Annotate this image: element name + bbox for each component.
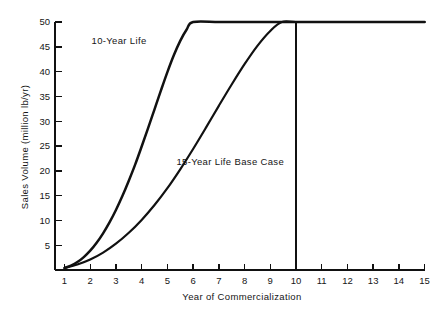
x-tick-label: 3 [113,275,118,286]
x-axis-ticks [65,264,425,271]
chart-canvas: 5101520253035404550 12345678910111213141… [0,0,440,313]
x-tick-label: 10 [291,275,302,286]
y-tick-label: 10 [39,215,50,226]
series-label-10-year-life: 10-Year Life [92,35,147,46]
y-axis-title: Sales Volume (million lb/yr) [19,85,30,209]
x-axis-title: Year of Commercialization [182,291,301,302]
x-tick-label: 15 [419,275,430,286]
y-tick-label: 15 [39,190,50,201]
x-tick-label: 2 [88,275,93,286]
x-tick-label: 8 [242,275,247,286]
y-tick-label: 40 [39,66,50,77]
y-axis-tick-labels: 5101520253035404550 [39,16,50,250]
x-tick-label: 9 [268,275,273,286]
x-tick-label: 4 [139,275,144,286]
chart-figure: 5101520253035404550 12345678910111213141… [0,0,440,313]
x-tick-label: 6 [190,275,195,286]
x-tick-label: 11 [317,275,327,286]
y-tick-label: 20 [39,165,50,176]
series-line-1 [65,21,425,268]
y-tick-label: 25 [39,140,50,151]
x-tick-label: 12 [342,275,353,286]
series-line-2 [65,21,425,268]
y-tick-label: 50 [39,16,50,27]
x-axis-tick-labels: 123456789101112131415 [62,275,430,286]
x-tick-label: 13 [368,275,379,286]
y-axis-ticks [55,22,62,245]
x-tick-label: 1 [62,275,67,286]
y-tick-label: 30 [39,116,50,127]
y-tick-label: 45 [39,41,50,52]
x-tick-label: 14 [394,275,405,286]
series-lines [65,21,425,268]
y-tick-label: 5 [45,240,50,251]
y-tick-label: 35 [39,91,50,102]
x-tick-label: 5 [165,275,170,286]
x-tick-label: 7 [216,275,221,286]
series-label-15-year-life-base-case: 15-Year Life Base Case [176,156,284,167]
